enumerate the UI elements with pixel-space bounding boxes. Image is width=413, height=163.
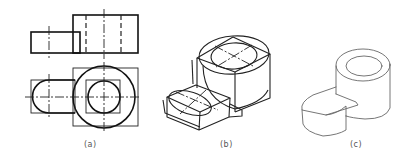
technical-drawing xyxy=(0,0,413,163)
boss-front-outline xyxy=(73,15,138,53)
hole-ellipse xyxy=(346,56,382,76)
base-rounded-outline xyxy=(33,80,76,113)
label-a: (a) xyxy=(84,140,97,149)
boss-box-left-edge xyxy=(192,60,193,84)
top-view xyxy=(25,62,140,132)
boss-box-edges xyxy=(197,54,270,112)
base-top-outline xyxy=(302,87,358,115)
base-rounded-edge xyxy=(326,106,346,116)
base-front-outline xyxy=(302,110,346,136)
boss-outer-ellipse-construction xyxy=(198,34,270,77)
panel-b-isometric-construction xyxy=(163,34,270,130)
boss-axis-2 xyxy=(216,45,252,67)
base-round-end-ellipse xyxy=(166,86,215,121)
front-view xyxy=(31,9,138,59)
label-b: (b) xyxy=(220,140,233,149)
label-c: (c) xyxy=(350,140,362,149)
boss-right-edge xyxy=(346,64,390,119)
panel-c-finished-sketch xyxy=(302,49,390,136)
base-axis-2 xyxy=(180,90,206,114)
panel-a-orthographic-views xyxy=(25,9,140,132)
